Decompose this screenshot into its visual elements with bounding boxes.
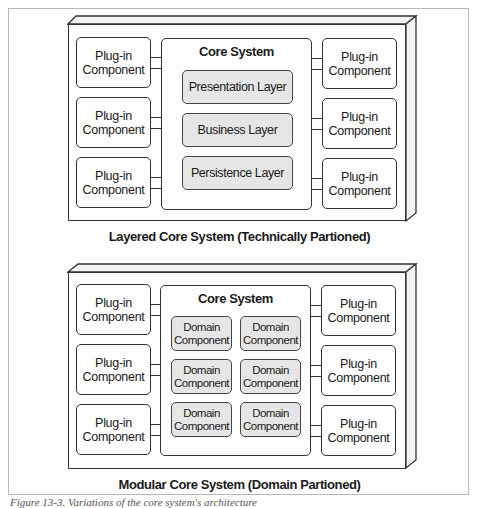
plugin-component: Plug-inComponent [321,405,396,456]
domain-component: DomainComponent [171,359,232,394]
connector-line [151,128,161,129]
connector-line [151,68,161,69]
domain-component: DomainComponent [240,316,301,351]
connector-line [311,425,321,426]
business-layer: Business Layer [182,113,293,147]
connector-line [312,178,322,179]
core-system: Core System Presentation Layer Business … [161,38,312,210]
diagram-caption: Layered Core System (Technically Partion… [0,229,479,244]
plugin-component: Plug-inComponent [321,285,396,336]
domain-component: DomainComponent [171,316,232,351]
connector-line [151,177,161,178]
plugin-component: Plug-inComponent [76,344,151,395]
connector-line [311,316,321,317]
connector-line [312,69,322,70]
persistence-layer: Persistence Layer [182,156,293,190]
plugin-component: Plug-inComponent [76,284,151,335]
domain-component: DomainComponent [240,359,301,394]
connector-line [311,365,321,366]
plugin-component: Plug-inComponent [76,37,151,88]
figure-caption: Figure 13-3. Variations of the core syst… [10,496,257,508]
connector-line [151,117,161,118]
presentation-layer: Presentation Layer [182,70,293,104]
modular-core-diagram: Plug-inComponent Plug-inComponent Plug-i… [0,250,479,500]
connector-line [312,58,322,59]
plugin-component: Plug-inComponent [76,157,151,208]
connector-line [312,129,322,130]
connector-line [311,436,321,437]
plugin-component: Plug-inComponent [322,98,397,149]
connector-line [151,57,161,58]
plugin-component: Plug-inComponent [322,158,397,209]
connector-line [312,189,322,190]
connector-line [311,305,321,306]
domain-component: DomainComponent [240,402,301,437]
connector-line [312,118,322,119]
core-system-title: Core System [162,44,311,59]
connector-line [311,376,321,377]
diagram-caption: Modular Core System (Domain Partioned) [0,477,479,492]
domain-component: DomainComponent [171,402,232,437]
plugin-component: Plug-inComponent [76,97,151,148]
plugin-component: Plug-inComponent [76,404,151,455]
core-system-title: Core System [161,291,310,306]
layered-core-diagram: Plug-inComponent Plug-inComponent Plug-i… [0,0,479,250]
plugin-component: Plug-inComponent [322,38,397,89]
core-system: Core System DomainComponent DomainCompon… [160,285,311,456]
connector-line [151,188,161,189]
plugin-component: Plug-inComponent [321,345,396,396]
